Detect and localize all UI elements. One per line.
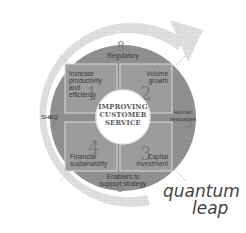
label-line: Human — [170, 109, 196, 116]
quadrant-label-financial-sustainability: Financial sustainability — [70, 153, 107, 167]
label-line: sustainability — [70, 160, 107, 167]
center-line-2: CUSTOMER — [91, 111, 155, 119]
label-line: Capital — [128, 153, 168, 160]
ring-label-sheq: SHEQ — [41, 114, 58, 121]
label-line: support strategy — [93, 180, 153, 187]
center-label: IMPROVING CUSTOMER SERVICE — [91, 103, 155, 127]
ring-label-human-resources: Human resources — [170, 109, 196, 123]
ring-label-enablers: Enablers to support strategy — [93, 173, 153, 187]
ring-label-regulatory: Regulatory — [100, 52, 146, 59]
label-line: efficiency — [69, 91, 102, 98]
label-line: growth — [134, 77, 168, 84]
tagline-leap: leap — [192, 200, 228, 217]
quadrant-label-productivity: Increase productivity and efficiency — [69, 70, 102, 98]
quantum-leap-diagram: 1 2 3 4 5 6 7 8 IMPROVING CUSTOMER SERVI… — [0, 0, 246, 233]
quadrant-label-capital-investment: Capital investment — [128, 153, 168, 167]
label-line: Regulatory — [100, 52, 146, 59]
label-line: Increase — [69, 70, 102, 77]
label-line: SHEQ — [41, 114, 58, 121]
label-line: and — [69, 84, 102, 91]
label-line: productivity — [69, 77, 102, 84]
center-line-1: IMPROVING — [91, 103, 155, 111]
label-line: resources — [170, 116, 196, 123]
label-line: Volume — [134, 70, 168, 77]
center-line-3: SERVICE — [91, 119, 155, 127]
label-line: Enablers to — [93, 173, 153, 180]
label-line: Financial — [70, 153, 107, 160]
quadrant-label-volume-growth: Volume growth — [134, 70, 168, 84]
label-line: investment — [128, 160, 168, 167]
